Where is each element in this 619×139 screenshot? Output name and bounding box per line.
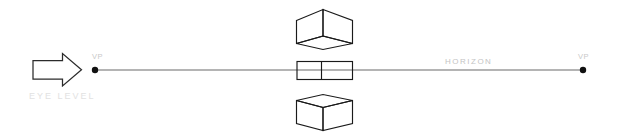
eye-level-label: EYE LEVEL <box>29 91 96 101</box>
horizon-label: HORIZON <box>445 57 492 66</box>
diagram-artwork <box>0 0 619 139</box>
perspective-diagram-canvas: VP VP HORIZON EYE LEVEL <box>0 0 619 139</box>
vanishing-point-dot-right <box>580 67 586 73</box>
cube-above-eye-level <box>297 10 353 50</box>
vanishing-point-dot-left <box>92 67 98 73</box>
vanishing-point-label-left: VP <box>92 52 103 61</box>
cube-below-eye-level <box>297 95 353 131</box>
vanishing-point-label-right: VP <box>578 52 589 61</box>
right-arrow-outline-icon <box>33 54 82 87</box>
